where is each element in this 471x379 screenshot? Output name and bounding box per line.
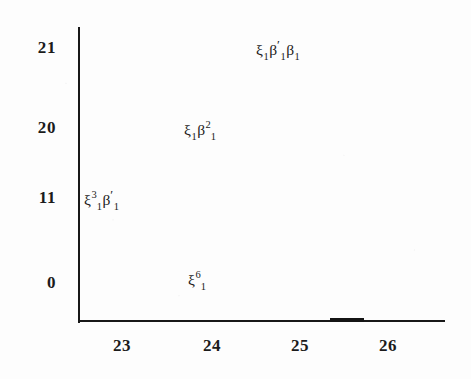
math-term: ξ61 bbox=[188, 272, 205, 288]
subscript: 1 bbox=[211, 131, 216, 142]
beta-glyph: β bbox=[286, 42, 294, 58]
superscript: 2 bbox=[206, 119, 211, 130]
beta-glyph: β bbox=[197, 122, 205, 138]
y-tick-label-11: 11 bbox=[4, 188, 56, 208]
xi-glyph: ξ bbox=[188, 272, 195, 288]
point-label-xi1-beta1sup2: ξ1β21 bbox=[184, 122, 217, 138]
y-tick-label-0: 0 bbox=[4, 273, 56, 293]
xi-glyph: ξ bbox=[256, 42, 263, 58]
subscript: 1 bbox=[201, 281, 206, 292]
x-tick-label-26: 26 bbox=[358, 336, 418, 356]
y-tick-label-21: 21 bbox=[4, 38, 56, 58]
xi-glyph: ξ bbox=[184, 122, 191, 138]
subscript: 1 bbox=[191, 131, 196, 142]
point-label-xi1-beta1prime-beta1: ξ1β′1β1 bbox=[256, 42, 300, 58]
subscript: 1 bbox=[97, 201, 102, 212]
math-term: β′1 bbox=[269, 42, 285, 58]
subscript: 1 bbox=[263, 51, 268, 62]
x-tick-label-24: 24 bbox=[182, 336, 242, 356]
point-label-xi1sup6: ξ61 bbox=[188, 272, 206, 288]
superscript: 6 bbox=[195, 269, 200, 280]
y-axis-line bbox=[78, 27, 80, 323]
prime-mark: ′ bbox=[110, 187, 113, 202]
xi-glyph: ξ bbox=[84, 192, 91, 208]
math-term: ξ1 bbox=[256, 42, 268, 58]
x-tick-label-23: 23 bbox=[92, 336, 152, 356]
subscript: 1 bbox=[280, 51, 285, 62]
beta-glyph: β bbox=[269, 42, 277, 58]
math-term: ξ1 bbox=[184, 122, 196, 138]
y-tick-label-20: 20 bbox=[4, 118, 56, 138]
math-term: β′1 bbox=[102, 192, 118, 208]
scatter-figure: 21 20 11 0 23 24 25 26 ξ1β′1β1 ξ1β21 ξ31… bbox=[0, 0, 471, 379]
point-label-xi1sup3-beta1prime: ξ31β′1 bbox=[84, 192, 119, 208]
x-tick-label-25: 25 bbox=[270, 336, 330, 356]
superscript: 3 bbox=[91, 189, 96, 200]
x-axis-line bbox=[78, 320, 445, 322]
subscript: 1 bbox=[295, 51, 300, 62]
math-term: β1 bbox=[286, 42, 299, 58]
subscript: 1 bbox=[114, 201, 119, 212]
prime-mark: ′ bbox=[277, 37, 280, 52]
math-term: ξ31 bbox=[84, 192, 101, 208]
math-term: β21 bbox=[197, 122, 215, 138]
x-axis-ink-blot bbox=[330, 318, 364, 322]
